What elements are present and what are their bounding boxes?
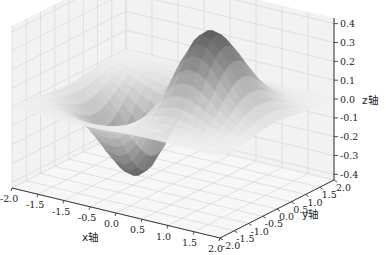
z-axis-ticks: -0.4-0.3-0.2-0.10.00.10.20.30.4 <box>334 18 358 180</box>
z-tick-label: -0.4 <box>340 169 358 180</box>
z-tick-label: -0.1 <box>340 112 358 123</box>
x-tick-label: 0.0 <box>104 218 119 229</box>
y-tick-label: 1.5 <box>322 189 337 200</box>
z-tick-label: -0.3 <box>340 150 358 161</box>
y-tick-label: 2.0 <box>336 182 351 193</box>
x-tick-label: -1.5 <box>52 206 70 217</box>
z-tick-label: -0.2 <box>340 131 358 142</box>
x-tick-label: -2.0 <box>0 193 18 204</box>
x-tick-label: -0.5 <box>78 212 96 223</box>
x-tick-label: -1.5 <box>26 199 44 210</box>
z-axis-label: z轴 <box>362 94 378 106</box>
z-tick-label: 0.3 <box>340 37 355 48</box>
z-tick-label: 0.1 <box>340 75 355 86</box>
y-tick-label: 0.0 <box>279 211 294 222</box>
x-axis-label: x轴 <box>82 231 98 243</box>
surface-plot-3d: -2.0-1.5-1.5-0.50.00.51.01.52.0 -2.0-1.5… <box>0 0 386 255</box>
z-tick-label: 0.2 <box>340 56 355 67</box>
z-tick-label: 0.0 <box>340 94 355 105</box>
x-tick-label: 1.5 <box>182 237 197 248</box>
x-tick-label: 1.0 <box>156 231 171 242</box>
y-tick-label: 1.0 <box>308 197 323 208</box>
y-axis-label: y轴 <box>302 208 318 220</box>
x-tick-label: 0.5 <box>130 224 145 235</box>
z-tick-label: 0.4 <box>340 18 355 29</box>
x-tick-label: 2.0 <box>208 243 223 254</box>
